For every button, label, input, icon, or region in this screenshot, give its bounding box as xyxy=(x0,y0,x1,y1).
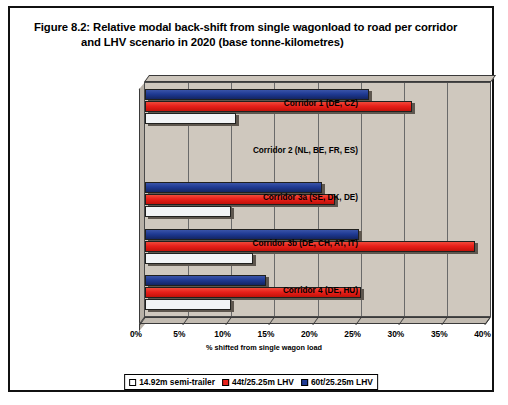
x-tick-label-15: 15% xyxy=(258,329,275,339)
gridline-25 xyxy=(361,83,362,316)
x-tick-20 xyxy=(312,318,318,325)
x-tick-30 xyxy=(398,318,404,325)
legend-label-0: 14.92m semi-trailer xyxy=(139,377,215,387)
legend-item-0[interactable]: 14.92m semi-trailer xyxy=(129,377,215,387)
bar-0-series-1[interactable] xyxy=(145,101,412,112)
legend-swatch-icon-1 xyxy=(222,379,229,386)
figure-frame: Figure 8.2: Relative modal back-shift fr… xyxy=(8,6,494,392)
x-tick-label-35: 35% xyxy=(431,329,448,339)
figure-title-line2: and LHV scenario in 2020 (base tonne-kil… xyxy=(34,35,474,50)
figure-title: Figure 8.2: Relative modal back-shift fr… xyxy=(34,20,474,50)
x-tick-10 xyxy=(225,318,231,325)
bar-3-series-2[interactable] xyxy=(145,229,359,240)
y-axis-label-0: Corridor 1 (DE, CZ) xyxy=(284,99,358,108)
x-tick-label-5: 5% xyxy=(173,329,185,339)
bar-0-series-2[interactable] xyxy=(145,89,369,100)
x-tick-label-10: 10% xyxy=(214,329,231,339)
bar-0-series-0[interactable] xyxy=(145,113,236,124)
x-tick-label-40: 40% xyxy=(474,329,491,339)
plot-top-face xyxy=(144,75,496,82)
bar-4-series-2[interactable] xyxy=(145,275,266,286)
x-tick-35 xyxy=(441,318,447,325)
x-tick-5 xyxy=(182,318,188,325)
bar-2-series-0[interactable] xyxy=(145,206,231,217)
legend-item-2[interactable]: 60t/25.25m LHV xyxy=(301,377,373,387)
y-axis-label-1: Corridor 2 (NL, BE, FR, ES) xyxy=(253,146,358,155)
y-tick-0 xyxy=(144,130,145,131)
x-tick-40 xyxy=(484,318,490,325)
legend-label-2: 60t/25.25m LHV xyxy=(311,377,373,387)
figure-title-line1: Relative modal back-shift from single wa… xyxy=(93,21,457,33)
y-tick-1 xyxy=(144,176,145,177)
legend-item-1[interactable]: 44t/25.25m LHV xyxy=(222,377,294,387)
x-tick-15 xyxy=(269,318,275,325)
x-tick-label-25: 25% xyxy=(344,329,361,339)
figure-label: Figure 8.2: xyxy=(34,21,90,33)
gridline-40 xyxy=(490,83,491,316)
x-tick-label-20: 20% xyxy=(301,329,318,339)
x-axis-title: % shifted from single wagon load xyxy=(10,343,508,352)
plot-floor xyxy=(139,317,491,324)
bar-4-series-0[interactable] xyxy=(145,299,231,310)
legend-swatch-icon-2 xyxy=(301,379,308,386)
y-tick-3 xyxy=(144,269,145,270)
bar-2-series-2[interactable] xyxy=(145,182,322,193)
x-tick-label-30: 30% xyxy=(388,329,405,339)
y-axis-label-3: Corridor 3b (DE, CH, AT, IT) xyxy=(252,239,358,248)
bar-3-series-0[interactable] xyxy=(145,253,253,264)
y-tick-2 xyxy=(144,223,145,224)
legend-swatch-icon-0 xyxy=(129,379,136,386)
y-axis-label-4: Corridor 4 (DE, HU) xyxy=(283,286,358,295)
gridline-30 xyxy=(404,83,405,316)
gridline-35 xyxy=(447,83,448,316)
x-tick-25 xyxy=(355,318,361,325)
legend-label-1: 44t/25.25m LHV xyxy=(232,377,294,387)
y-axis-label-2: Corridor 3a (SE, DK, DE) xyxy=(263,193,358,202)
chart-legend: 14.92m semi-trailer44t/25.25m LHV60t/25.… xyxy=(124,374,378,390)
x-tick-label-0: 0% xyxy=(130,329,142,339)
